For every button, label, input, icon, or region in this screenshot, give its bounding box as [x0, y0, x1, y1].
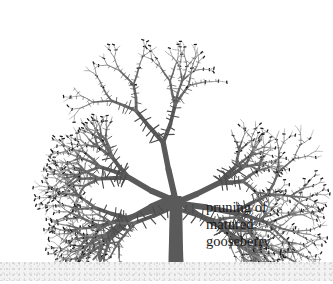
- caption-line-1: pruning of: [206, 199, 328, 216]
- caption-line-3: gooseberry: [206, 233, 328, 250]
- caption-line-2: matured: [206, 216, 328, 233]
- figure-caption: pruning of matured gooseberry: [206, 199, 328, 250]
- ground-soil-band: [0, 262, 333, 281]
- gooseberry-pruning-figure: pruning of matured gooseberry: [0, 0, 333, 284]
